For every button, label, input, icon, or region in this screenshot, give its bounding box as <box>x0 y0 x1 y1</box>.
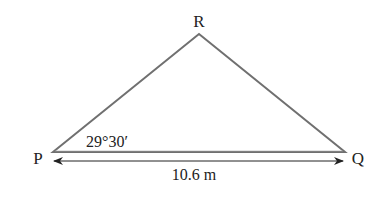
base-length-label: 10.6 m <box>172 166 217 183</box>
vertex-label-q: Q <box>352 149 364 168</box>
vertex-label-p: P <box>33 149 42 168</box>
angle-label-p: 29°30′ <box>86 133 128 150</box>
triangle-diagram: R P Q 29°30′ 10.6 m <box>0 0 383 200</box>
vertex-label-r: R <box>193 12 205 31</box>
